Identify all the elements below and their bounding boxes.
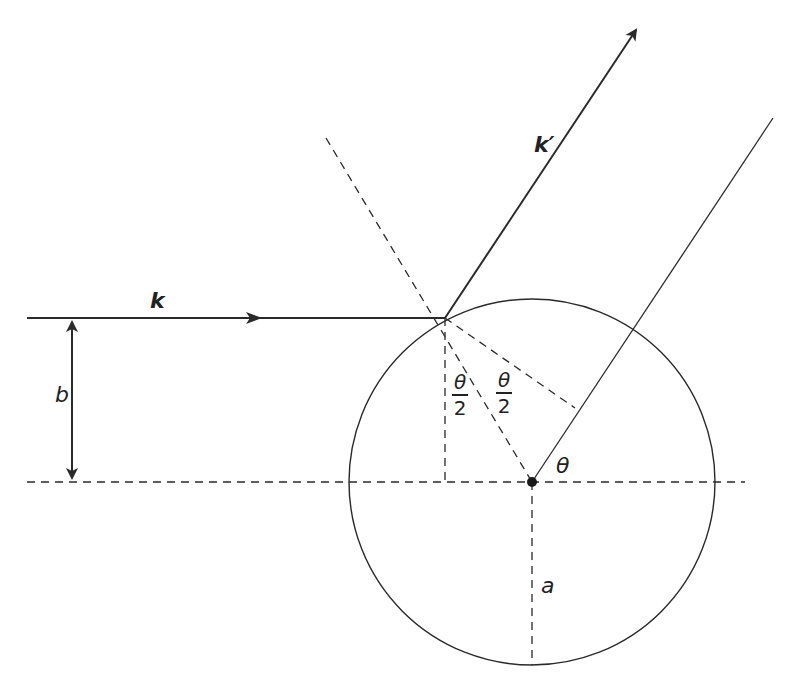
half-angle-label-2: θ 2 <box>496 370 512 416</box>
label-k: k <box>150 290 165 312</box>
center-dot <box>527 477 537 487</box>
scattered-ray <box>445 30 636 318</box>
scattering-direction-line <box>532 118 773 482</box>
scattering-diagram <box>0 0 786 690</box>
half-angle-1-numerator: θ <box>454 372 466 392</box>
label-theta: θ <box>556 455 569 477</box>
half-angle-1-denominator: 2 <box>454 398 467 418</box>
half-angle-2-numerator: θ <box>498 370 510 390</box>
label-b: b <box>55 384 69 406</box>
label-a: a <box>541 575 554 597</box>
half-angle-2-denominator: 2 <box>498 396 511 416</box>
half-angle-label-1: θ 2 <box>452 372 468 418</box>
label-k-prime: k′ <box>534 134 554 156</box>
